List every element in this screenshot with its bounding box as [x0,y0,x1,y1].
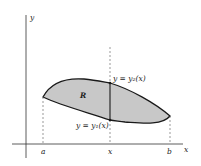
region-r [43,79,170,123]
tick-label-b: b [167,147,172,156]
region-diagram: y x a x b R y = y₂(x) y = y₁(x) [0,0,201,166]
upper-point [109,82,112,85]
tick-label-a: a [41,147,45,156]
x-axis-label: x [184,145,189,154]
y-axis-label: y [29,13,35,22]
lower-curve-label: y = y₁(x) [75,121,109,130]
lower-point [109,119,112,122]
region-label: R [79,91,86,100]
tick-label-x: x [108,147,113,156]
upper-curve-label: y = y₂(x) [112,74,146,83]
